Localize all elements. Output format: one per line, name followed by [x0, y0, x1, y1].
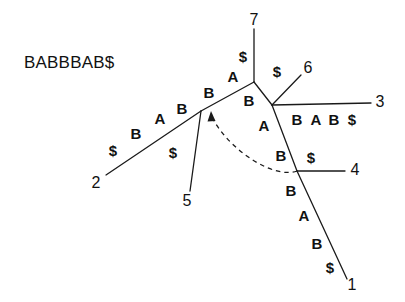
edge-label-left-2-b2: B [131, 126, 142, 141]
edge-label-right-3-b2: B [329, 112, 340, 127]
edge-label-low-1-b2: B [312, 236, 323, 251]
suffix-link-arrowhead [208, 111, 216, 122]
leaf-label-6: 6 [304, 60, 313, 76]
edge-node-right-to-leaf-6 [272, 75, 301, 105]
edge-node-left-to-leaf-5 [190, 111, 201, 191]
edge-label-low-1-b: B [286, 183, 297, 198]
edge-node-low-to-leaf-1 [297, 171, 347, 279]
edge-label-right-3-dollar: $ [348, 112, 356, 127]
leaf-label-1: 1 [348, 277, 357, 293]
edge-label-left-2-a: A [155, 111, 166, 126]
suffix-tree-canvas [0, 0, 405, 302]
edge-label-left-5-dollar: $ [169, 145, 177, 160]
edge-label-low-1-dollar: $ [326, 260, 334, 275]
input-sequence-label: BABBBAB$ [24, 54, 114, 71]
edge-label-right-6-dollar: $ [273, 64, 281, 79]
edge-label-root-left-a: A [228, 69, 239, 84]
edge-label-right-low-a: A [259, 118, 270, 133]
edge-label-right-3-b: B [292, 112, 303, 127]
edge-root-to-node-right [254, 82, 272, 105]
leaf-label-7: 7 [250, 12, 259, 28]
edge-label-root-7-dollar: $ [239, 49, 247, 64]
edge-label-root-right-b: B [244, 93, 255, 108]
edge-label-left-2-b: B [177, 101, 188, 116]
edge-label-right-3-a: A [311, 112, 322, 127]
leaf-label-4: 4 [351, 162, 360, 178]
tree-edges [106, 29, 371, 279]
edge-label-low-1-a: A [299, 208, 310, 223]
leaf-label-2: 2 [92, 175, 101, 191]
edge-node-right-to-leaf-3 [272, 103, 371, 105]
edge-node-left-to-leaf-2 [106, 111, 201, 175]
edge-label-right-low-b: B [276, 148, 287, 163]
edge-label-root-left-b: B [204, 85, 215, 100]
edge-label-low-4-dollar: $ [307, 150, 315, 165]
leaf-label-5: 5 [183, 193, 192, 209]
edge-label-left-2-dollar: $ [109, 143, 117, 158]
suffix-tree-figure: BABBBAB$ $ A B B A B $ $ $ B A B $ B A B… [0, 0, 405, 302]
leaf-label-3: 3 [376, 94, 385, 110]
